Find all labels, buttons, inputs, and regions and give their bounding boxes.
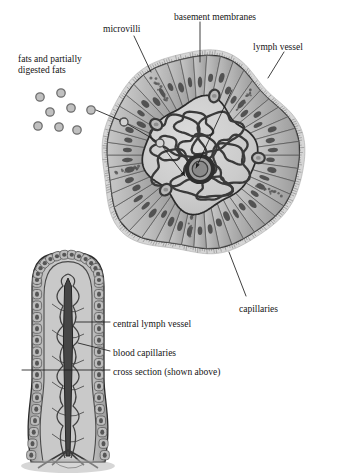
villus-cell-nucleus [97, 292, 101, 297]
lymph-vessel-leader [268, 52, 284, 78]
vessel-lumen [256, 156, 261, 160]
cytoplasm-granule [137, 164, 140, 167]
villus-cell-nucleus [32, 430, 36, 435]
cytoplasm-granule [191, 229, 193, 231]
villus-cell-nucleus [99, 418, 103, 423]
villus-cell-nucleus [102, 441, 106, 446]
cytoplasm-granule [163, 98, 165, 100]
cytoplasm-granule [269, 190, 271, 192]
villus-cell-nucleus [97, 326, 101, 331]
cytoplasm-granule [277, 192, 279, 194]
microvilli-leader [134, 36, 151, 72]
capillaries-leader [229, 252, 246, 296]
villus-cell-nucleus [97, 361, 101, 366]
villus-cell-nucleus [34, 407, 38, 412]
cytoplasm-granule [241, 103, 243, 105]
fat-droplets [34, 89, 95, 134]
cytoplasm-granule [156, 82, 158, 84]
villus-cell-nucleus [55, 254, 59, 258]
villus-cell-nucleus [48, 257, 52, 261]
vessel-lumen [154, 123, 159, 127]
cytoplasm-granule [249, 92, 251, 94]
label-microvilli: microvilli [103, 24, 140, 35]
cytoplasm-granule [121, 168, 123, 170]
vessel-lumen [163, 188, 168, 192]
villus-cell-nucleus [97, 349, 101, 354]
villus-cell-nucleus [97, 372, 101, 377]
villus-cell-nucleus [97, 315, 101, 320]
cytoplasm-granule [159, 85, 162, 88]
cytoplasm-granule [263, 187, 266, 190]
cytoplasm-granule [135, 167, 138, 170]
label-fats: fats and partially digested fats [18, 54, 114, 76]
fat-droplet [87, 106, 95, 114]
cell-nucleus [198, 226, 203, 235]
villus-cell-nucleus [97, 338, 101, 343]
villus-cell-nucleus [30, 441, 34, 446]
villus-cell-nucleus [35, 361, 39, 366]
villus-cell-nucleus [97, 384, 101, 389]
cytoplasm-granule [126, 170, 128, 172]
fat-droplet [36, 93, 44, 101]
villus-cell-nucleus [70, 253, 74, 257]
villus-cell-nucleus [97, 278, 101, 282]
cytoplasm-granule [243, 101, 246, 104]
villus-cell-nucleus [97, 303, 101, 308]
villus-cell-nucleus [33, 418, 37, 423]
cytoplasm-granule [129, 168, 132, 171]
cytoplasm-granule [250, 95, 252, 97]
label-capillaries: capillaries [239, 304, 278, 315]
cytoplasm-granule [161, 91, 163, 93]
villus-cell-nucleus [62, 253, 66, 257]
villus-cell-nucleus [35, 372, 39, 377]
absorbed-fat-droplet [156, 139, 164, 147]
absorbed-fat-droplet [120, 118, 128, 126]
label-lymph-vessel: lymph vessel [253, 42, 303, 53]
fat-droplet [57, 89, 65, 97]
villus-cell-nucleus [35, 315, 39, 320]
cytoplasm-granule [247, 94, 249, 96]
villus-cell-nucleus [97, 395, 101, 400]
cytoplasm-granule [188, 235, 191, 238]
villus-cell-nucleus [98, 407, 102, 412]
cytoplasm-granule [149, 76, 152, 79]
villus-cell-nucleus [35, 292, 39, 297]
cytoplasm-granule [270, 193, 272, 195]
cytoplasm-granule [259, 186, 262, 189]
vessel-lumen [212, 94, 217, 98]
fat-droplet [73, 126, 81, 134]
villus-cell-nucleus [35, 395, 39, 400]
villus-cell-nucleus [29, 453, 33, 458]
cytoplasm-granule [159, 89, 162, 92]
cell-nucleus [198, 77, 202, 88]
cytoplasm-granule [157, 89, 159, 91]
villus-cell-nucleus [100, 430, 104, 435]
fat-droplet [55, 123, 63, 131]
villus-base-shadow [21, 459, 115, 473]
fat-droplet [46, 108, 54, 116]
cytoplasm-granule [115, 171, 118, 174]
villus-cell-nucleus [35, 326, 39, 331]
villus-cell-nucleus [35, 384, 39, 389]
cytoplasm-granule [274, 190, 276, 192]
villus-cell-nucleus [35, 338, 39, 343]
villus-cell-nucleus [35, 349, 39, 354]
lymph-vessel-lumen [192, 161, 208, 177]
fat-droplet [34, 122, 42, 130]
label-central-lymph: central lymph vessel [113, 319, 191, 330]
villus-cell-nucleus [103, 453, 107, 458]
label-blood-caps: blood capillaries [113, 348, 176, 359]
cytoplasm-granule [124, 171, 126, 173]
villus-cell-nucleus [35, 303, 39, 308]
cytoplasm-granule [249, 89, 252, 92]
cytoplasm-granule [245, 95, 247, 97]
villus-longitudinal-figure [21, 250, 115, 473]
cytoplasm-granule [155, 77, 158, 80]
cytoplasm-granule [259, 183, 262, 186]
cytoplasm-granule [238, 107, 240, 109]
label-basement: basement membranes [174, 12, 256, 23]
cytoplasm-granule [238, 103, 240, 105]
label-cross-section: cross section (shown above) [113, 367, 220, 378]
cytoplasm-granule [188, 222, 190, 224]
villus-cell-nucleus [77, 254, 81, 258]
